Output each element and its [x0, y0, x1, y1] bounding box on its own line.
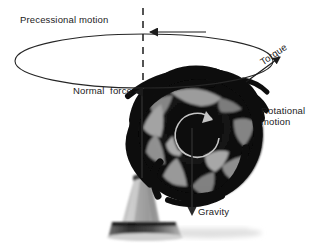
rotational-motion-line2: motion [261, 116, 290, 127]
precession-ellipse [15, 34, 273, 88]
rotational-motion-label: Rotationalmotion [261, 105, 305, 127]
normal-force-label: Normal force [73, 85, 132, 96]
precessional-motion-label: Precessional motion [20, 14, 108, 25]
gyroscope-diagram: Precessional motion Normal force Torque … [0, 0, 321, 250]
gravity-label: Gravity [198, 206, 229, 217]
gravity-arrowhead [188, 207, 197, 216]
rotational-motion-line1: Rotational [261, 105, 305, 116]
